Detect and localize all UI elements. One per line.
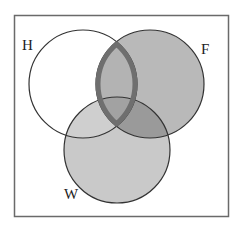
label-f: F xyxy=(201,41,209,57)
label-h: H xyxy=(22,37,33,53)
label-w: W xyxy=(64,186,79,202)
venn-diagram: H F W xyxy=(0,0,240,225)
